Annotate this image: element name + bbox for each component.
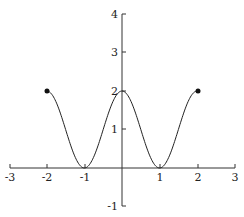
y-tick-label: 2 [111,85,118,98]
y-tick-label: 1 [111,123,118,136]
x-tick-label: -3 [5,171,16,184]
endpoint-right [196,89,201,94]
x-tick-label: -1 [80,171,91,184]
endpoint-left [45,89,50,94]
x-tick-label: 1 [157,171,164,184]
x-tick-label: 2 [195,171,202,184]
y-tick-label: 4 [111,8,118,21]
y-tick-label: -1 [107,200,118,213]
y-ticks [122,14,126,206]
y-tick-label: 3 [111,46,118,59]
x-tick-label: -2 [42,171,53,184]
function-plot: -3 -2 -1 1 2 3 4 3 2 1 -1 [0,0,244,217]
x-tick-label: 3 [232,171,239,184]
